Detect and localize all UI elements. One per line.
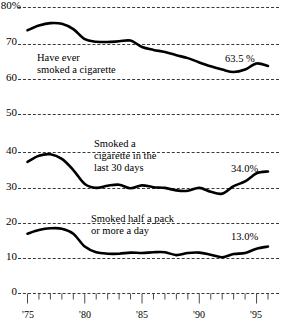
end-value-ever-smoked: 63.5 % (225, 53, 255, 64)
end-value-halfpack: 13.0% (231, 231, 258, 242)
annotation-last30days-line3: last 30 days (94, 162, 156, 174)
annotation-last30days-line2: cigarette in the (94, 150, 156, 162)
annotation-ever-smoked-line2: smoked a cigarette (37, 64, 116, 76)
annotation-halfpack-line2: or more a day (91, 225, 174, 237)
annotation-ever-smoked-line1: Have ever (37, 52, 116, 64)
annotation-halfpack-line1: Smoked half a pack (91, 213, 174, 225)
smoking-trend-chart: 80% 70 60 50 40 30 20 10 0 '75 '80 '85 '… (0, 0, 282, 327)
annotation-last30days-line1: Smoked a (94, 138, 156, 150)
annotation-last30days: Smoked a cigarette in the last 30 days (94, 138, 156, 175)
annotation-halfpack: Smoked half a pack or more a day (91, 213, 174, 237)
end-value-last30days: 34.0% (231, 163, 258, 174)
annotation-ever-smoked: Have ever smoked a cigarette (37, 52, 116, 76)
